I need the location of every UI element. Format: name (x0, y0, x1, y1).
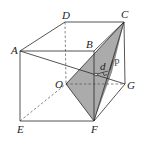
label-e: E (16, 123, 24, 135)
foot-point-icon (95, 73, 98, 76)
label-b: B (86, 38, 93, 50)
label-g: G (127, 79, 135, 91)
edge-a-d (20, 22, 65, 51)
label-c: C (121, 8, 129, 20)
label-o: O (55, 78, 63, 90)
visible-edges (20, 22, 125, 121)
edge-c-g (124, 22, 125, 84)
label-d-distance: d (100, 60, 106, 72)
label-a: A (10, 44, 18, 56)
shaded-triangle-ocf (66, 22, 124, 121)
label-f: F (90, 123, 98, 135)
cube-diagram: D C A B O G E F d P (0, 0, 144, 141)
label-d: D (61, 9, 70, 21)
edge-d-o (65, 22, 66, 84)
label-p: P (114, 57, 120, 68)
